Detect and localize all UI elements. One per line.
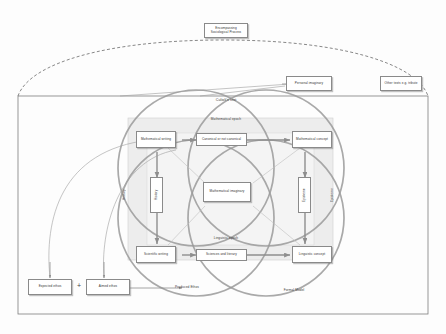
personal-imaginary-label: Personal imaginary: [295, 82, 323, 86]
other-texts-label: Other texts e.g. tribute: [384, 82, 417, 86]
node-mathematical-concept: Mathematical concept: [292, 131, 332, 148]
diagram-canvas: Encompassing Sociological Process Person…: [0, 0, 446, 334]
axis-label-episteme: Episteme: [330, 172, 338, 218]
node-history: History: [150, 177, 163, 213]
culioli-text-title: Culioli's text: [186, 98, 266, 103]
node-scientific-writing: Scientific writing: [136, 246, 176, 263]
node-expected-ethos: Expected ethos: [28, 279, 72, 295]
formal-model-label: Formal Model: [272, 288, 316, 292]
node-linguistic-concept: Linguistic concept: [292, 246, 332, 263]
node-episteme: Episteme: [298, 177, 311, 213]
ethos-plus-operator: +: [77, 282, 81, 289]
mathematical-epoch-label: Mathematical epoch: [191, 117, 261, 121]
encompassing-process-label: Encompassing Sociological Process: [206, 27, 246, 35]
produced-ethos-label: Produced Ethos: [165, 285, 209, 289]
node-mathematical-writing: Mathematical writing: [136, 131, 176, 148]
encompassing-process-arc: [18, 40, 428, 96]
other-texts-box: Other texts e.g. tribute: [380, 76, 422, 91]
node-mathematical-imaginary: Mathematical imaginary: [203, 182, 251, 202]
linguistic-epoch-label: Linguistic epoch: [191, 236, 261, 240]
personal-imaginary-box: Personal imaginary: [286, 76, 332, 91]
encompassing-process-box: Encompassing Sociological Process: [204, 23, 248, 38]
node-sciences-and-literary: Sciences and literary: [196, 249, 247, 261]
node-canonical-or-not: Canonical or not canonical: [196, 133, 247, 146]
axis-label-history: History: [122, 172, 130, 218]
node-aimed-ethos: Aimed ethos: [86, 279, 130, 295]
